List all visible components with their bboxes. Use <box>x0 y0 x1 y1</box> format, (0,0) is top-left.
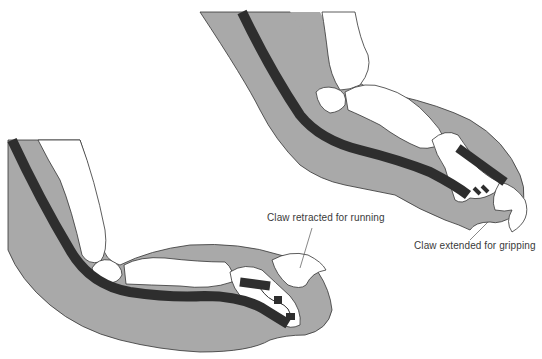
diagram-canvas <box>0 0 542 359</box>
retracted-ligament-block-2 <box>286 313 295 320</box>
extended-claw-label: Claw extended for gripping <box>414 240 536 251</box>
retracted-paw <box>8 140 332 352</box>
retracted-bone-phalanx1 <box>124 258 233 288</box>
retracted-claw-label: Claw retracted for running <box>267 212 385 223</box>
extended-paw <box>200 12 527 232</box>
retracted-ligament-block-1 <box>274 296 282 304</box>
retracted-tendon-upper <box>240 282 270 286</box>
